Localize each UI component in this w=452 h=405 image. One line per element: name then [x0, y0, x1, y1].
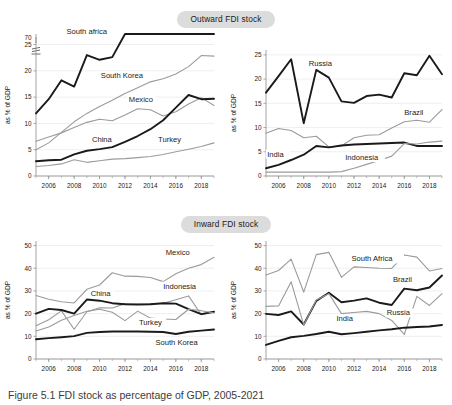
x-tick-label: 2006 — [42, 181, 57, 188]
x-tick-label: 2006 — [271, 364, 286, 371]
y-tick-label: 20 — [254, 309, 262, 316]
panel-outward-left: 0510152025702006200820102012201420162018… — [0, 28, 226, 200]
y-axis-title: as % of GDP — [230, 280, 237, 319]
series-line-turkey — [36, 142, 214, 166]
x-tick-label: 2016 — [397, 364, 412, 371]
y-tick-label: 0 — [28, 172, 32, 179]
y-tick-label: 10 — [254, 123, 262, 130]
series-label-turkey: Turkey — [139, 317, 162, 326]
series-label-china: China — [91, 288, 112, 297]
x-tick-label: 2010 — [92, 364, 107, 371]
series-line-indonesia — [36, 295, 214, 328]
y-tick-label: 5 — [258, 148, 262, 155]
section-outward: Outward FDI stock 0510152025702006200820… — [0, 0, 452, 208]
series-label-indonesia: Indonesia — [163, 281, 197, 290]
chart-inward-left: 010203040502006200820102012201420162018a… — [0, 233, 226, 383]
x-tick-label: 2018 — [422, 181, 437, 188]
x-tick-label: 2006 — [271, 181, 286, 188]
series-label-south-africa: South africa — [67, 28, 108, 36]
x-tick-label: 2008 — [297, 364, 312, 371]
series-label-india: India — [267, 149, 284, 158]
figure-caption: Figure 5.1 FDI stock as percentage of GD… — [8, 389, 452, 405]
outward-panels: 0510152025702006200820102012201420162018… — [0, 28, 452, 200]
series-line-mexico — [36, 97, 214, 141]
series-label-india: India — [336, 314, 353, 323]
y-tick-label: 25 — [254, 51, 262, 58]
y-tick-label: 20 — [254, 75, 262, 82]
x-tick-label: 2006 — [42, 364, 57, 371]
y-tick-label: 0 — [258, 172, 262, 179]
y-axis-title: as % of GDP — [4, 280, 11, 319]
y-tick-label: 25 — [24, 40, 32, 47]
x-tick-label: 2016 — [169, 181, 184, 188]
x-tick-label: 2008 — [67, 181, 82, 188]
series-label-south-korea: South Korea — [101, 71, 144, 80]
panel-outward-right: 05101520252006200820102012201420162018as… — [226, 28, 452, 200]
y-axis-title: as % of GDP — [230, 93, 237, 132]
y-tick-label: 50 — [254, 241, 262, 248]
x-tick-label: 2010 — [322, 364, 337, 371]
x-tick-label: 2012 — [347, 181, 362, 188]
y-tick-label: 15 — [254, 99, 262, 106]
x-tick-label: 2008 — [297, 181, 312, 188]
y-tick-label: 40 — [24, 264, 32, 271]
x-tick-label: 2014 — [372, 181, 387, 188]
x-tick-label: 2012 — [118, 181, 133, 188]
y-tick-label: 50 — [24, 241, 32, 248]
series-label-russia: Russia — [387, 308, 411, 317]
series-label-turkey: Turkey — [158, 134, 181, 143]
series-label-brazil: Brazil — [393, 275, 412, 284]
y-tick-label: 5 — [28, 146, 32, 153]
x-tick-label: 2014 — [372, 364, 387, 371]
x-tick-label: 2016 — [169, 364, 184, 371]
y-tick-label: 15 — [24, 93, 32, 100]
series-label-indonesia: Indonesia — [345, 153, 379, 162]
x-tick-label: 2014 — [143, 181, 158, 188]
x-tick-label: 2014 — [143, 364, 158, 371]
y-tick-label: 10 — [24, 119, 32, 126]
series-label-south-korea: South Korea — [156, 337, 199, 346]
y-axis-break-label: 70 — [24, 34, 32, 41]
y-tick-label: 30 — [254, 287, 262, 294]
x-tick-label: 2018 — [194, 181, 209, 188]
y-tick-label: 40 — [254, 264, 262, 271]
panel-inward-left: 010203040502006200820102012201420162018a… — [0, 233, 226, 383]
figure-caption-text: Figure 5.1 FDI stock as percentage of GD… — [8, 389, 452, 401]
inward-title-pill: Inward FDI stock — [181, 216, 272, 233]
x-tick-label: 2018 — [422, 364, 437, 371]
chart-inward-right: 010203040502006200820102012201420162018a… — [226, 233, 452, 383]
y-tick-label: 20 — [24, 67, 32, 74]
x-tick-label: 2012 — [118, 364, 133, 371]
x-tick-label: 2012 — [347, 364, 362, 371]
series-label-brazil: Brazil — [404, 107, 423, 116]
inward-title-row: Inward FDI stock — [0, 208, 452, 233]
series-line-india — [266, 324, 442, 344]
y-tick-label: 0 — [28, 355, 32, 362]
series-line-south-korea — [36, 55, 214, 149]
series-label-mexico: Mexico — [129, 94, 153, 103]
x-tick-label: 2010 — [322, 181, 337, 188]
panel-inward-right: 010203040502006200820102012201420162018a… — [226, 233, 452, 383]
section-inward: Inward FDI stock 01020304050200620082010… — [0, 208, 452, 380]
series-label-mexico: Mexico — [166, 247, 190, 256]
figure-fdi-stock: Outward FDI stock 0510152025702006200820… — [0, 0, 452, 405]
x-tick-label: 2008 — [67, 364, 82, 371]
series-label-china: China — [92, 134, 113, 143]
chart-outward-right: 05101520252006200820102012201420162018as… — [226, 28, 452, 200]
y-tick-label: 10 — [24, 332, 32, 339]
inward-panels: 010203040502006200820102012201420162018a… — [0, 233, 452, 383]
series-label-russia: Russia — [309, 58, 333, 67]
y-tick-label: 30 — [24, 287, 32, 294]
y-axis-title: as % of GDP — [4, 85, 11, 124]
x-tick-label: 2010 — [92, 181, 107, 188]
y-tick-label: 20 — [24, 309, 32, 316]
y-tick-label: 10 — [254, 332, 262, 339]
outward-title-pill: Outward FDI stock — [177, 11, 274, 28]
chart-outward-left: 0510152025702006200820102012201420162018… — [0, 28, 226, 200]
series-label-south-africa: South Africa — [351, 254, 393, 263]
x-tick-label: 2018 — [194, 364, 209, 371]
y-tick-label: 0 — [258, 355, 262, 362]
x-tick-label: 2016 — [397, 181, 412, 188]
outward-title-row: Outward FDI stock — [0, 0, 452, 28]
